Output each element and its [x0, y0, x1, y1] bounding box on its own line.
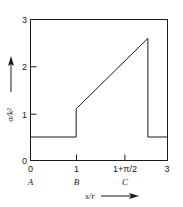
y-axis-title-group: σ/k²: [5, 56, 15, 122]
chart-svg: 3 2 1 0 0 1 1+π/2 3 A B C σ/k²: [0, 0, 183, 207]
x-point-label-b: B: [74, 177, 80, 187]
x-axis-title: s/r: [85, 191, 95, 201]
xtick-label-2: 1+π/2: [113, 164, 137, 174]
x-axis-title-group: s/r: [85, 191, 139, 201]
xtick-label-0: 0: [28, 164, 33, 174]
y-axis-title: σ/k²: [5, 108, 15, 122]
ytick-label-0: 0: [22, 156, 27, 166]
ytick-label-1: 1: [22, 110, 27, 120]
x-axis-ticks: [31, 155, 168, 161]
data-curve: [31, 38, 168, 137]
x-point-label-a: A: [27, 177, 34, 187]
xtick-label-1: 1: [74, 164, 79, 174]
xtick-label-3: 3: [164, 164, 169, 174]
chart-figure: 3 2 1 0 0 1 1+π/2 3 A B C σ/k²: [0, 0, 183, 207]
ytick-label-3: 3: [22, 15, 27, 25]
ytick-label-2: 2: [22, 62, 27, 72]
plot-frame: [31, 20, 168, 161]
y-axis-ticks: [31, 20, 37, 161]
x-point-label-c: C: [122, 177, 129, 187]
